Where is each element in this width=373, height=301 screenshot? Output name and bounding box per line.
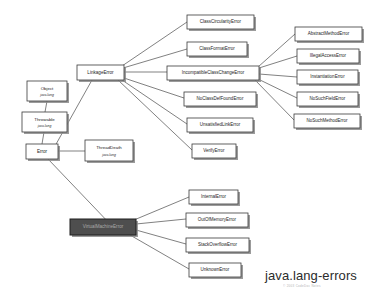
node-label-noclassdeffounderror: NoClassDefFoundError: [197, 96, 244, 101]
node-label-threaddeath: ThreadDeath: [96, 145, 122, 150]
node-stackoverflowerror[interactable]: StackOverflowError: [186, 238, 251, 254]
edge-error-virtualmachineerror: [48, 159, 112, 226]
diagram-canvas: Objectjava.langThrowablejava.langErrorTh…: [0, 0, 373, 301]
node-label-verifyerror: VerifyError: [203, 148, 225, 153]
node-internalerror[interactable]: InternalError: [189, 190, 240, 206]
edge-vme-outofmemory: [136, 219, 186, 224]
node-threaddeath[interactable]: ThreadDeathjava.lang: [85, 140, 135, 163]
diagram-subtitle: © 2003 CodeDoc Notes: [283, 284, 321, 288]
node-nosuchfielderror[interactable]: NoSuchFieldError: [297, 92, 360, 108]
node-label-incompatibleclasschangeerror: IncompatibleClassChangeError: [182, 70, 245, 75]
node-label-nosuchmethoderror: NoSuchMethodError: [306, 118, 348, 123]
node-classformaterror[interactable]: ClassFormatError: [187, 42, 249, 58]
node-illegalaccesserror[interactable]: IllegalAccessError: [297, 49, 361, 65]
node-label-unknownerror: UnknownError: [201, 267, 230, 272]
class-hierarchy-diagram: Objectjava.langThrowablejava.langErrorTh…: [0, 0, 373, 301]
node-label-stackoverflowerror: StackOverflowError: [198, 242, 238, 247]
node-error[interactable]: Error: [26, 144, 60, 161]
edge-linkage-classcircularity: [122, 22, 187, 66]
node-instantiationerror[interactable]: InstantiationError: [297, 70, 360, 86]
node-noclassdeffounderror[interactable]: NoClassDefFoundError: [184, 92, 258, 108]
node-nosuchmethoderror[interactable]: NoSuchMethodError: [294, 114, 362, 130]
edge-linkage-verify: [118, 80, 192, 150]
node-sublabel-threaddeath: java.lang: [101, 153, 116, 157]
node-abstractmethoderror[interactable]: AbstractMethodError: [295, 27, 364, 43]
node-box-object[interactable]: [27, 81, 67, 101]
node-label-linkageerror: LinkageError: [87, 70, 114, 75]
edge-incompatible-nosuchmethod: [255, 80, 294, 120]
node-box-threaddeath[interactable]: [85, 140, 133, 161]
node-outofmemoryerror[interactable]: OutOfMemoryError: [186, 213, 250, 229]
node-object[interactable]: Objectjava.lang: [27, 81, 69, 103]
node-label-classformaterror: ClassFormatError: [199, 46, 235, 51]
edge-incompatible-illegalaccess: [259, 56, 297, 68]
node-label-error: Error: [37, 149, 48, 154]
node-verifyerror[interactable]: VerifyError: [192, 144, 238, 160]
node-label-internalerror: InternalError: [201, 194, 227, 199]
node-unsatisfiedlinkerror[interactable]: UnsatisfiedLinkError: [187, 118, 255, 134]
edge-vme-internalerror: [134, 197, 189, 220]
node-sublabel-throwable: java.lang: [37, 124, 52, 128]
node-sublabel-object: java.lang: [39, 93, 54, 97]
node-incompatibleclasschangeerror[interactable]: IncompatibleClassChangeError: [167, 66, 261, 82]
node-box-throwable[interactable]: [22, 112, 67, 132]
node-throwable[interactable]: Throwablejava.lang: [22, 112, 69, 134]
node-label-unsatisfiedlinkerror: UnsatisfiedLinkError: [200, 122, 241, 127]
edge-incompatible-nosuchfield: [258, 79, 297, 98]
node-virtualmachineerror[interactable]: VirtualMachineError: [70, 219, 138, 237]
edge-linkage-unsatisfiedlink: [122, 80, 187, 124]
node-label-nosuchfielderror: NoSuchFieldError: [310, 96, 346, 101]
node-label-illegalaccesserror: IllegalAccessError: [310, 53, 347, 58]
node-layer: Objectjava.langThrowablejava.langErrorTh…: [22, 15, 364, 279]
node-label-virtualmachineerror: VirtualMachineError: [83, 224, 124, 229]
node-classcircularityerror[interactable]: ClassCircularityError: [187, 15, 256, 31]
node-label-abstractmethoderror: AbstractMethodError: [308, 31, 350, 36]
node-linkageerror[interactable]: LinkageError: [77, 65, 126, 82]
diagram-title: java.lang-errors: [265, 268, 357, 283]
edge-incompatible-instantiation: [259, 74, 297, 77]
edge-incompatible-abstractmethod: [258, 34, 295, 67]
node-label-throwable: Throwable: [34, 117, 55, 122]
edge-vme-unknownerror: [130, 235, 189, 269]
edge-vme-stackoverflow: [136, 230, 186, 244]
node-label-object: Object: [41, 86, 54, 91]
node-label-classcircularityerror: ClassCircularityError: [200, 19, 242, 24]
node-label-instantiationerror: InstantiationError: [310, 74, 345, 79]
node-unknownerror[interactable]: UnknownError: [189, 263, 243, 279]
node-label-outofmemoryerror: OutOfMemoryError: [198, 217, 237, 222]
